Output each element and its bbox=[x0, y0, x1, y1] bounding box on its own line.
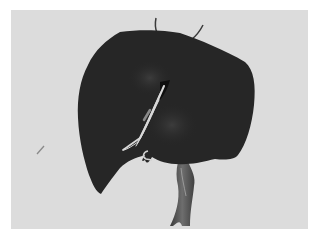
liver-render bbox=[0, 0, 315, 241]
image-frame bbox=[0, 0, 315, 241]
